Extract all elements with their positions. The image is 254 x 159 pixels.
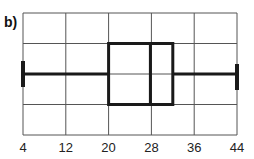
x-tick-label: 36 <box>187 140 201 155</box>
x-tick-label: 28 <box>144 140 158 155</box>
x-tick-label: 20 <box>101 140 115 155</box>
x-tick-label: 4 <box>19 140 26 155</box>
box-plot-chart: 41220283644 <box>0 0 254 159</box>
x-tick-label: 12 <box>59 140 73 155</box>
x-tick-label: 44 <box>230 140 244 155</box>
